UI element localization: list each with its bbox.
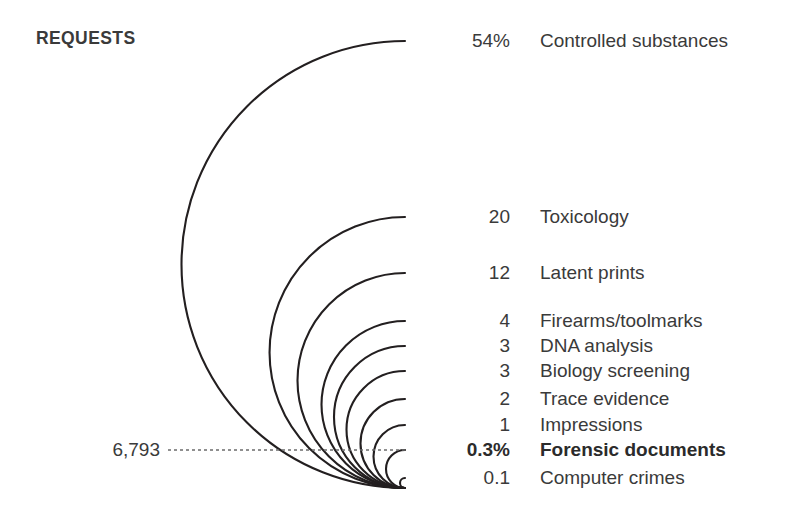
row-value: 0.3% <box>440 439 510 461</box>
row-label: Trace evidence <box>540 388 669 410</box>
row-label: Firearms/toolmarks <box>540 310 703 332</box>
row-label: Biology screening <box>540 360 690 382</box>
row-label: Toxicology <box>540 206 629 228</box>
row-value: 3 <box>440 335 510 357</box>
arc-paths <box>181 41 405 488</box>
row-label: Forensic documents <box>540 439 726 461</box>
row-label: Controlled substances <box>540 30 728 52</box>
page-title: REQUESTS <box>36 28 135 49</box>
row-value: 12 <box>440 262 510 284</box>
row-label: Impressions <box>540 414 642 436</box>
row-label: Computer crimes <box>540 467 685 489</box>
value-arc <box>298 273 406 488</box>
arc-chart: REQUESTS 6,793 54%Controlled substances2… <box>0 0 789 528</box>
value-arc <box>270 217 405 488</box>
row-value: 0.1 <box>440 467 510 489</box>
value-arc <box>400 478 405 488</box>
row-value: 20 <box>440 206 510 228</box>
row-label: Latent prints <box>540 262 645 284</box>
row-value: 1 <box>440 414 510 436</box>
row-value: 54% <box>440 30 510 52</box>
row-value: 2 <box>440 388 510 410</box>
row-value: 3 <box>440 360 510 382</box>
row-value: 4 <box>440 310 510 332</box>
row-label: DNA analysis <box>540 335 653 357</box>
value-arc <box>181 41 405 488</box>
value-arc <box>386 450 405 488</box>
